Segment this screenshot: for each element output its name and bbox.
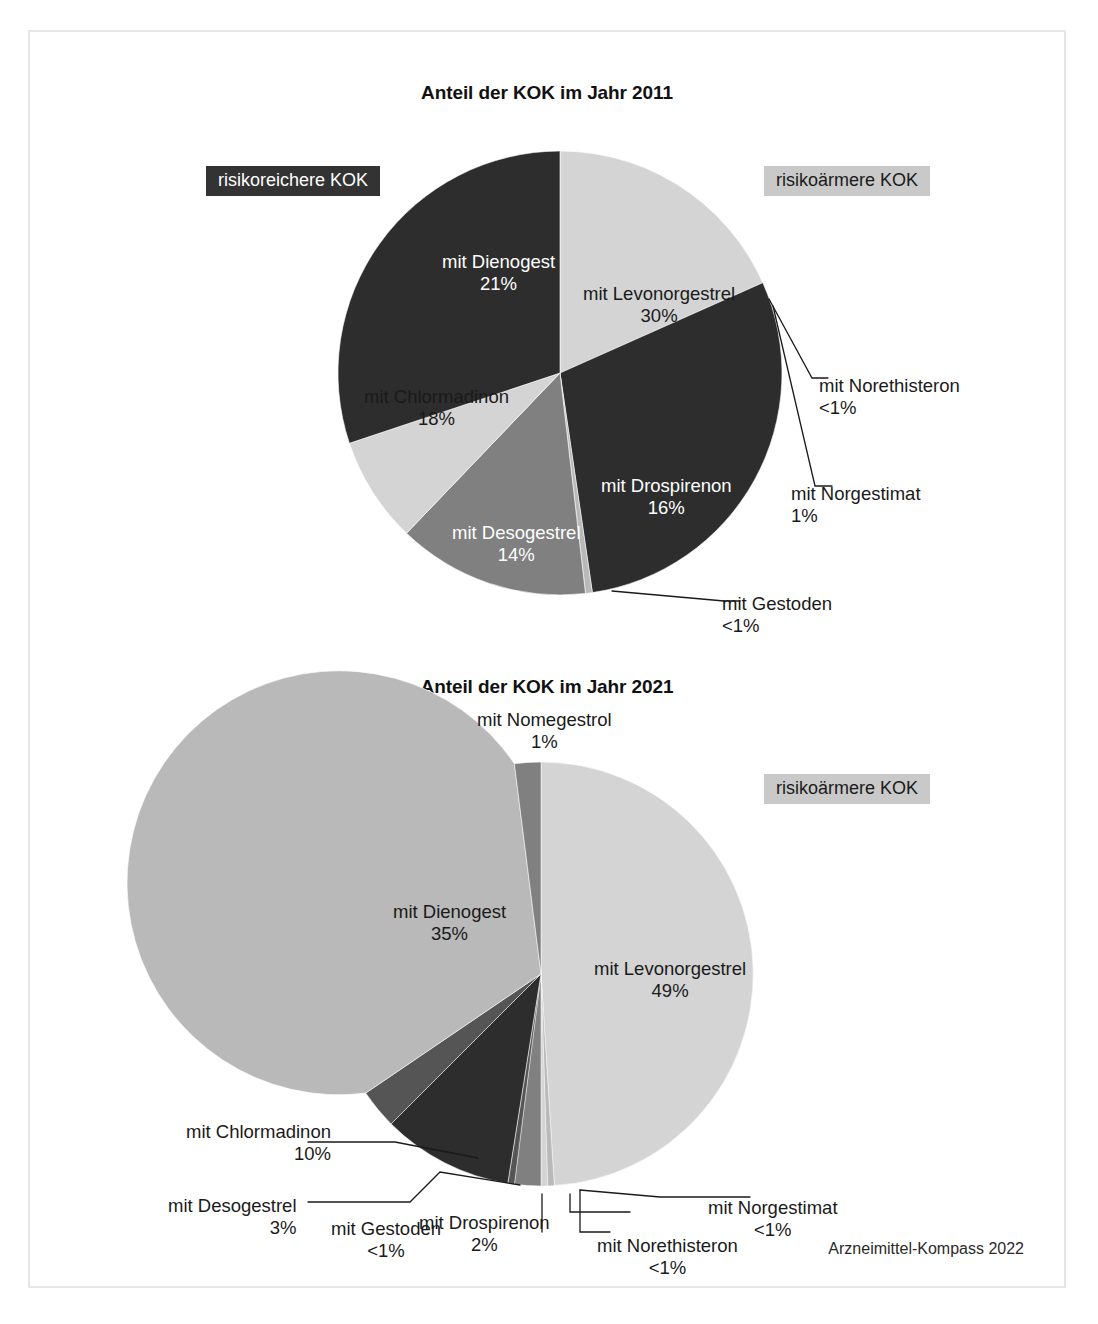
pie-label-desogestrel-2011: mit Desogestrel 14% [452,522,581,566]
pie-label-value: 3% [168,1217,297,1239]
pie-label-text: mit Levonorgestrel [583,283,735,304]
chart-title-2011: Anteil der KOK im Jahr 2011 [30,82,1064,104]
pie-label-chlormadinon-2011: mit Chlormadinon 18% [364,386,509,430]
pie-label-value: 49% [594,980,746,1002]
pie-label-text: mit Norgestimat [791,483,921,504]
pie-label-drospirenon-2021: mit Drospirenon 2% [419,1212,550,1256]
pie-label-norgestimat-2011: mit Norgestimat 1% [791,483,921,527]
pie-label-value: 14% [452,544,581,566]
pie-label-text: mit Drospirenon [601,475,732,496]
pie-label-dienogest-2021: mit Dienogest 35% [393,901,506,945]
pie-label-dienogest-2011: mit Dienogest 21% [442,251,555,295]
pie-label-value: 18% [364,408,509,430]
pie-label-nomegestrol-2021: mit Nomegestrol 1% [477,709,612,753]
pie-label-text: mit Desogestrel [452,522,581,543]
pie-label-value: 21% [442,273,555,295]
pie-label-text: mit Chlormadinon [186,1121,331,1142]
pie-label-text: mit Dienogest [393,901,506,922]
pie-label-value: 16% [601,497,732,519]
pie-label-chlormadinon-2021: mit Chlormadinon 10% [186,1121,331,1165]
pie-label-text: mit Dienogest [442,251,555,272]
pie-label-text: mit Norethisteron [597,1235,738,1256]
pie-label-desogestrel-2021: mit Desogestrel 3% [168,1195,297,1239]
pie-label-text: mit Drospirenon [419,1212,550,1233]
figure-frame: Anteil der KOK im Jahr 2011 risikoreiche… [28,30,1066,1288]
pie-label-norethisteron-2021: mit Norethisteron <1% [597,1235,738,1279]
chart-title-2021: Anteil der KOK im Jahr 2021 [30,676,1064,698]
annotation-risikoaermere-kok-2021: risikoärmere KOK [764,774,930,804]
pie-label-value: 1% [477,731,612,753]
pie-label-value: 35% [393,923,506,945]
pie-label-text: mit Gestoden [722,593,832,614]
pie-label-text: mit Levonorgestrel [594,958,746,979]
pie-label-value: 1% [791,505,921,527]
pie-label-value: <1% [819,397,960,419]
pie-label-value: 10% [186,1143,331,1165]
pie-label-value: <1% [722,615,832,637]
pie-label-text: mit Norethisteron [819,375,960,396]
annotation-risikoaermere-kok-2011: risikoärmere KOK [764,166,930,196]
pie-label-levonorgestrel-2021: mit Levonorgestrel 49% [594,958,746,1002]
pie-label-levonorgestrel-2011: mit Levonorgestrel 30% [583,283,735,327]
pie-label-drospirenon-2011: mit Drospirenon 16% [601,475,732,519]
pie-label-text: mit Desogestrel [168,1195,297,1216]
pie-label-value: 2% [419,1234,550,1256]
pie-label-value: <1% [597,1257,738,1279]
figure-source-footer: Arzneimittel-Kompass 2022 [828,1240,1024,1258]
pie-label-norethisteron-2011: mit Norethisteron <1% [819,375,960,419]
pie-label-value: 30% [583,305,735,327]
pie-label-text: mit Norgestimat [708,1197,838,1218]
pie-label-text: mit Nomegestrol [477,709,612,730]
pie-label-gestoden-2011: mit Gestoden <1% [722,593,832,637]
pie-label-text: mit Chlormadinon [364,386,509,407]
